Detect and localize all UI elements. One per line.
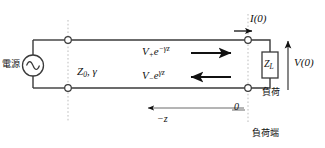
- line-parameter-gamma: , γ: [87, 65, 97, 77]
- transmission-line-diagram: 電源 Z0, γ V+e−γz V−eγz I(0) V(0) ZL 負荷 0 …: [0, 0, 325, 148]
- backward-wave-v: V: [142, 69, 149, 81]
- forward-wave-exponent: −γz: [159, 44, 170, 53]
- load-label: 負荷: [262, 88, 280, 97]
- terminal-node-icon-load-bottom: [245, 85, 252, 92]
- terminal-node-icon-source-bottom: [65, 85, 72, 92]
- terminal-node-icon-source-top: [65, 37, 72, 44]
- axis-label: −z: [157, 114, 168, 124]
- axis-origin-label: 0: [234, 102, 239, 112]
- load-impedance-label: ZL: [264, 59, 274, 71]
- forward-wave-label: V+e−γz: [142, 45, 170, 59]
- source-label: 電源: [2, 60, 20, 69]
- load-top-lead: [251, 40, 270, 52]
- load-terminal-label: 負荷端: [252, 129, 279, 138]
- backward-wave-label: V−eγz: [142, 69, 165, 83]
- current-label: I(0): [250, 13, 267, 24]
- load-impedance-subscript: L: [270, 62, 274, 71]
- line-parameters-label: Z0, γ: [77, 66, 97, 79]
- voltage-label: V(0): [294, 57, 314, 68]
- terminal-node-icon-load-top: [245, 37, 252, 44]
- forward-wave-v: V: [142, 45, 149, 57]
- backward-wave-exponent: γz: [159, 68, 165, 77]
